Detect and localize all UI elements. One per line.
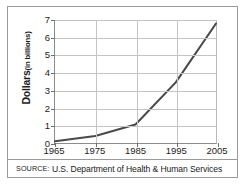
x-tick-label: 1975: [75, 146, 115, 156]
x-tick-label: 2005: [197, 146, 237, 156]
y-tick-mark: [51, 55, 55, 56]
y-tick-label: 5: [34, 51, 50, 61]
x-tick-label: 1995: [156, 146, 196, 156]
y-axis-title-main: Dollars: [20, 70, 32, 104]
source-text: U.S. Department of Health & Human Servic…: [52, 164, 222, 174]
y-axis-tick-labels: 01234567: [34, 16, 50, 140]
y-tick-label: 7: [34, 15, 50, 25]
chart-plot-container: Dollars(in billions) 01234567 1965197519…: [8, 7, 237, 152]
gridline-horizontal: [55, 109, 216, 110]
gridline-horizontal: [55, 38, 216, 39]
y-axis-title-unit: (in billions): [23, 31, 32, 70]
source-note: SOURCE: U.S. Department of Health & Huma…: [8, 160, 237, 177]
gridline-horizontal: [55, 20, 216, 21]
y-tick-mark: [51, 20, 55, 21]
y-tick-label: 3: [34, 86, 50, 96]
y-tick-mark: [51, 38, 55, 39]
x-axis-tick-labels: 19651975198519952005: [54, 146, 217, 160]
y-axis-title: Dollars(in billions): [16, 13, 34, 123]
gridline-horizontal: [55, 73, 216, 74]
x-tick-label: 1985: [116, 146, 156, 156]
gridline-vertical: [96, 20, 97, 143]
gridline-horizontal: [55, 126, 216, 127]
y-tick-label: 1: [34, 122, 50, 132]
y-tick-label: 6: [34, 33, 50, 43]
y-tick-label: 2: [34, 104, 50, 114]
source-keyword: SOURCE:: [16, 164, 49, 173]
data-line-series: [55, 24, 216, 142]
gridline-horizontal: [55, 55, 216, 56]
gridline-vertical: [177, 20, 178, 143]
x-tick-label: 1965: [34, 146, 74, 156]
y-tick-label: 4: [34, 68, 50, 78]
gridline-horizontal: [55, 91, 216, 92]
y-tick-mark: [51, 91, 55, 92]
y-tick-mark: [51, 109, 55, 110]
y-tick-mark: [51, 126, 55, 127]
plot-area: [54, 20, 217, 144]
y-tick-mark: [51, 73, 55, 74]
chart-figure: Dollars(in billions) 01234567 1965197519…: [7, 6, 238, 178]
gridline-vertical: [137, 20, 138, 143]
